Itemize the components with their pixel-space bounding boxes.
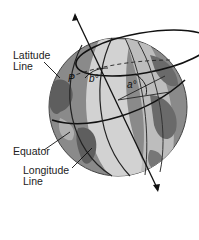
latitude-line-label: Latitude Line xyxy=(13,50,50,72)
equator-label: Equator xyxy=(13,146,50,157)
longitude-label-word2: Line xyxy=(23,176,69,187)
latitude-label-word2: Line xyxy=(13,61,50,72)
point-p-label: P xyxy=(68,73,75,84)
longitude-line-label: Longitude Line xyxy=(23,165,69,187)
angle-b-label: b° xyxy=(89,73,99,84)
angle-a-label: a° xyxy=(127,79,137,90)
